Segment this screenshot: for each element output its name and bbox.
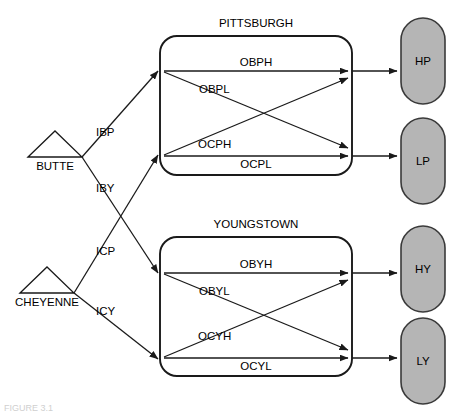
destination-node-hp[interactable]: HP	[401, 18, 445, 104]
source-node-butte[interactable]: BUTTE	[28, 131, 82, 172]
arc-iby-label: IBY	[96, 182, 115, 194]
arc-ocph-line	[164, 78, 348, 155]
pittsburgh-title: PITTSBURGH	[219, 17, 293, 29]
arc-obyl[interactable]: OBYL	[164, 274, 348, 350]
destination-node-hy[interactable]: HY	[401, 226, 445, 312]
lp-label: LP	[416, 155, 430, 167]
arc-ocyl[interactable]: OCYL	[164, 358, 348, 372]
butte-label: BUTTE	[36, 160, 74, 172]
arc-ocyh-label: OCYH	[198, 330, 231, 342]
arc-icy[interactable]: ICY	[74, 293, 158, 359]
hp-label: HP	[415, 55, 431, 67]
hy-label: HY	[415, 263, 431, 275]
arc-obpl-line	[164, 72, 348, 148]
ly-label: LY	[416, 355, 430, 367]
arc-icp[interactable]: ICP	[74, 155, 158, 293]
arc-obyh[interactable]: OBYH	[164, 258, 348, 273]
figure-caption: FIGURE 3.1	[4, 403, 53, 413]
arc-ocpl[interactable]: OCPL	[164, 156, 348, 170]
arc-icy-line	[74, 293, 158, 359]
arc-icp-line	[74, 155, 158, 293]
arc-obph[interactable]: OBPH	[164, 56, 348, 71]
arc-ocyh[interactable]: OCYH	[164, 280, 348, 357]
arc-obpl-label: OBPL	[199, 83, 230, 95]
arc-ocyh-line	[164, 280, 348, 357]
cheyenne-label: CHEYENNE	[15, 296, 79, 308]
diagram-canvas: BUTTE CHEYENNE IBP IBY ICP ICY PITT	[0, 0, 460, 414]
arc-ocyl-label: OCYL	[240, 360, 272, 372]
arc-ocpl-label: OCPL	[240, 158, 272, 170]
cheyenne-triangle-icon	[20, 267, 74, 293]
arc-ocph[interactable]: OCPH	[164, 78, 348, 155]
arc-icy-label: ICY	[96, 305, 116, 317]
destination-node-ly[interactable]: LY	[401, 318, 445, 404]
arc-ibp[interactable]: IBP	[82, 71, 158, 157]
arc-ocph-label: OCPH	[198, 138, 231, 150]
arc-ibp-line	[82, 71, 158, 157]
arc-icp-label: ICP	[96, 245, 116, 257]
network-flow-diagram: BUTTE CHEYENNE IBP IBY ICP ICY PITT	[0, 0, 460, 414]
arc-obpl[interactable]: OBPL	[164, 72, 348, 148]
butte-triangle-icon	[28, 131, 82, 157]
destination-node-lp[interactable]: LP	[401, 118, 445, 204]
arc-obph-label: OBPH	[240, 56, 273, 68]
arc-obyh-label: OBYH	[240, 258, 273, 270]
youngstown-title: YOUNGSTOWN	[214, 218, 299, 230]
arc-obyl-line	[164, 274, 348, 350]
arc-ibp-label: IBP	[96, 126, 115, 138]
arc-obyl-label: OBYL	[199, 285, 230, 297]
source-node-cheyenne[interactable]: CHEYENNE	[15, 267, 79, 308]
